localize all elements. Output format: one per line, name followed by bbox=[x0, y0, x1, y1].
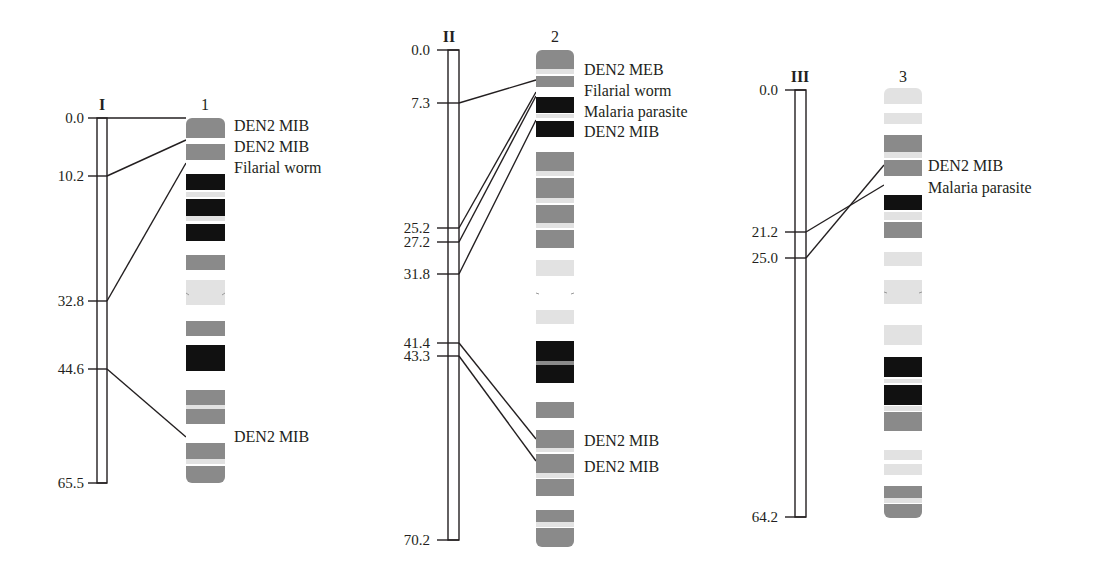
scale-bar-III bbox=[795, 90, 806, 517]
scale-title-III: III bbox=[791, 68, 810, 85]
tick-label: 65.5 bbox=[58, 475, 84, 491]
tick-label: 43.3 bbox=[404, 348, 430, 364]
tick-label: 21.2 bbox=[752, 224, 778, 240]
chromosome-3 bbox=[884, 88, 922, 518]
chromosome-title-1: 1 bbox=[201, 96, 209, 113]
chromosome-title-3: 3 bbox=[899, 68, 907, 85]
connectors-I bbox=[107, 118, 186, 437]
locus-label: Filarial worm bbox=[584, 82, 672, 99]
locus-label: DEN2 MIB bbox=[584, 432, 659, 449]
locus-label: DEN2 MIB bbox=[234, 428, 309, 445]
chromosome-2 bbox=[536, 50, 574, 547]
locus-label: Malaria parasite bbox=[584, 103, 688, 121]
scale-bar-II bbox=[448, 50, 459, 540]
tick-label: 25.0 bbox=[752, 250, 778, 266]
tick-label: 64.2 bbox=[752, 509, 778, 525]
tick-label: 0.0 bbox=[65, 110, 84, 126]
tick-label: 10.2 bbox=[58, 168, 84, 184]
tick-label: 27.2 bbox=[404, 234, 430, 250]
tick-label: 70.2 bbox=[404, 532, 430, 548]
chromosome-title-2: 2 bbox=[551, 28, 559, 45]
locus-label: DEN2 MIB bbox=[584, 458, 659, 475]
linkage-group-I: I 0.0 10.2 32.8 44.6 65.5 1 bbox=[58, 96, 322, 491]
scale-title-II: II bbox=[443, 28, 455, 45]
tick-label: 31.8 bbox=[404, 266, 430, 282]
tick-label: 32.8 bbox=[58, 293, 84, 309]
chromosome-1 bbox=[186, 118, 225, 483]
linkage-group-II: II 0.0 7.3 25.2 27.2 31.8 41.4 43.3 70.2 bbox=[404, 28, 688, 548]
scale-title-I: I bbox=[99, 96, 105, 113]
locus-label: DEN2 MIB bbox=[584, 123, 659, 140]
linkage-group-III: III 0.0 21.2 25.0 64.2 3 bbox=[752, 68, 1032, 525]
tick-label: 44.6 bbox=[58, 361, 85, 377]
linkage-map-diagram: I 0.0 10.2 32.8 44.6 65.5 1 bbox=[0, 0, 1112, 575]
locus-label: DEN2 MIB bbox=[234, 117, 309, 134]
locus-label: DEN2 MIB bbox=[234, 138, 309, 155]
locus-label: Malaria parasite bbox=[928, 179, 1032, 197]
tick-label: 0.0 bbox=[759, 82, 778, 98]
locus-label: DEN2 MIB bbox=[928, 157, 1003, 174]
connectors-III bbox=[806, 165, 884, 258]
connectors-II bbox=[459, 80, 536, 461]
locus-label: DEN2 MEB bbox=[584, 61, 664, 78]
tick-label: 7.3 bbox=[411, 95, 430, 111]
tick-label: 0.0 bbox=[411, 42, 430, 58]
locus-label: Filarial worm bbox=[234, 159, 322, 176]
